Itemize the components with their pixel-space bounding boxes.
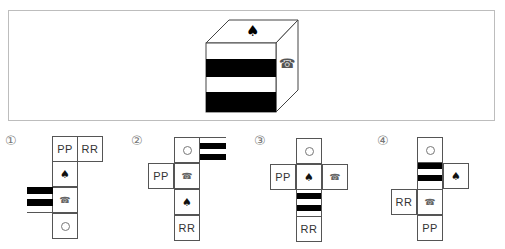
face-pp: PP — [417, 215, 443, 241]
face-telephone: ☎ — [174, 163, 200, 189]
telephone-icon: ☎ — [59, 195, 70, 205]
option-number-3: ③ — [254, 133, 266, 148]
face-stripes — [27, 187, 53, 213]
option-number-4: ④ — [377, 133, 389, 148]
circle-icon — [426, 146, 435, 155]
telephone-icon: ☎ — [424, 197, 435, 207]
face-pp: PP — [52, 136, 78, 162]
option-number-1: ① — [5, 133, 17, 148]
circle-icon — [183, 146, 192, 155]
face-circle — [417, 137, 443, 163]
face-telephone: ☎ — [322, 164, 348, 190]
face-rr: RR — [296, 216, 322, 242]
spade-icon: ♠ — [304, 171, 314, 184]
face-spade: ♠ — [52, 161, 78, 187]
face-spade: ♠ — [443, 163, 469, 189]
telephone-icon: ☎ — [181, 171, 192, 181]
face-circle — [52, 213, 78, 239]
spade-icon: ♠ — [182, 196, 192, 209]
circle-icon — [61, 222, 70, 231]
spade-icon: ♠ — [246, 22, 259, 40]
face-rr: RR — [77, 136, 103, 162]
face-telephone: ☎ — [417, 189, 443, 215]
telephone-icon: ☎ — [279, 56, 295, 71]
face-circle — [296, 138, 322, 164]
face-rr: RR — [174, 215, 200, 241]
face-stripes — [417, 163, 443, 189]
option-number-2: ② — [131, 133, 143, 148]
face-spade: ♠ — [174, 189, 200, 215]
circle-icon — [305, 147, 314, 156]
face-stripes — [296, 190, 322, 216]
face-pp: PP — [148, 163, 174, 189]
telephone-icon: ☎ — [329, 172, 340, 182]
spade-icon: ♠ — [451, 170, 461, 183]
spade-icon: ♠ — [60, 168, 70, 181]
face-rr: RR — [391, 189, 417, 215]
face-spade: ♠ — [296, 164, 322, 190]
face-stripes — [200, 137, 226, 162]
face-pp: PP — [270, 164, 296, 190]
face-circle — [174, 137, 200, 163]
face-telephone: ☎ — [52, 187, 78, 213]
stripe-2 — [206, 92, 276, 112]
stripe-1 — [206, 59, 276, 77]
